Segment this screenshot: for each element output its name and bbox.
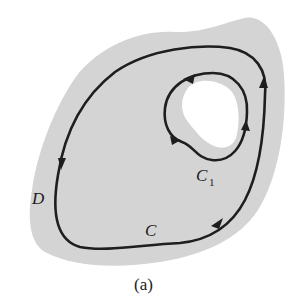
- region-diagram: D C C 1 (a): [0, 0, 296, 306]
- region-label-d: D: [31, 189, 45, 208]
- curve-label-c: C: [145, 221, 157, 240]
- curve-label-c1: C: [196, 166, 208, 185]
- figure-caption: (a): [134, 275, 153, 294]
- curve-label-c1-subscript: 1: [209, 176, 215, 188]
